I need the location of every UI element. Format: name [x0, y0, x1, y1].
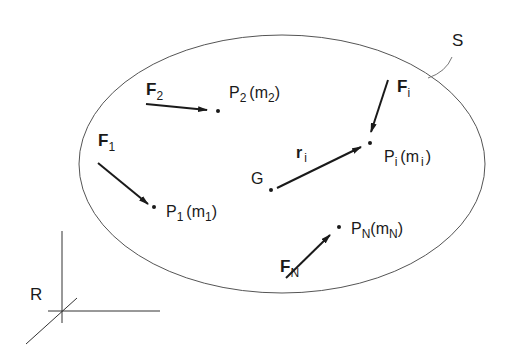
center-of-mass: G ri — [251, 144, 361, 192]
force-i-arrow — [371, 80, 388, 132]
position-vector-label: ri — [296, 144, 307, 165]
center-of-mass-label: G — [251, 170, 263, 187]
particle-i: Fi Pi(mi) — [368, 77, 431, 169]
force-1-label: F1 — [98, 131, 115, 154]
particle-n: PN(mN) FN — [280, 220, 403, 280]
force-i-label: Fi — [397, 77, 410, 100]
particle-1-dot — [152, 205, 156, 209]
particle-2: F2 P2(m2) — [146, 80, 280, 113]
reference-frame: R — [26, 231, 160, 344]
particle-1: F1 P1(m1) — [98, 131, 217, 224]
system-of-particles-diagram: S F2 P2(m2) F1 P1(m1) Fi Pi(mi) G — [0, 0, 506, 357]
system-label: S — [452, 31, 463, 50]
particle-2-label: P2(m2) — [229, 84, 280, 105]
particle-1-label: P1(m1) — [166, 203, 217, 224]
force-1-arrow — [98, 163, 148, 204]
particle-n-label: PN(mN) — [351, 220, 403, 241]
particle-i-label: Pi(mi) — [384, 148, 431, 169]
particle-i-dot — [368, 141, 372, 145]
force-2-label: F2 — [146, 80, 163, 103]
force-n-arrow — [286, 235, 330, 278]
force-2-arrow — [146, 104, 207, 110]
reference-frame-label: R — [30, 285, 42, 304]
axis-diagonal — [26, 298, 77, 344]
center-of-mass-dot — [269, 188, 273, 192]
particle-n-dot — [337, 225, 341, 229]
particle-2-dot — [216, 109, 220, 113]
position-vector-arrow — [277, 147, 361, 188]
system-label-leader — [428, 57, 452, 78]
system-boundary-ellipse — [79, 35, 485, 293]
